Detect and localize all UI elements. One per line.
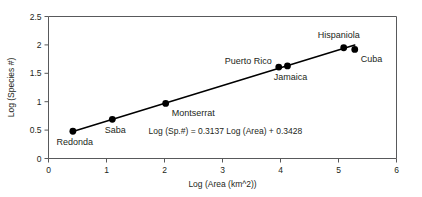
data-point-montserrat — [162, 100, 169, 107]
y-axis-title: Log (Species #) — [6, 58, 16, 118]
point-label-cuba: Cuba — [361, 54, 383, 64]
chart-canvas: 0123456 00.511.522.5 RedondaSabaMontserr… — [0, 0, 422, 197]
y-tick-label: 1.5 — [30, 68, 42, 78]
x-tick-label: 6 — [394, 165, 399, 175]
data-point-saba — [109, 116, 116, 123]
x-tick-label: 5 — [336, 165, 341, 175]
y-tick-label: 1 — [37, 97, 42, 107]
x-tick-label: 0 — [46, 165, 51, 175]
x-tick-label: 2 — [162, 165, 167, 175]
data-point-cuba — [351, 46, 358, 53]
data-point-puerto-rico — [275, 64, 282, 71]
point-label-hispaniola: Hispaniola — [318, 30, 360, 40]
y-tick-label: 2 — [37, 40, 42, 50]
x-axis-title: Log (Area (km^2)) — [188, 179, 256, 189]
y-tick-label: 0 — [37, 154, 42, 164]
point-label-montserrat: Montserrat — [172, 108, 216, 118]
x-tick-label: 4 — [278, 165, 283, 175]
point-label-puerto-rico: Puerto Rico — [225, 56, 272, 66]
x-tick-label: 3 — [220, 165, 225, 175]
data-point-jamaica — [284, 63, 291, 70]
point-label-redonda: Redonda — [57, 137, 94, 147]
chart-annotations: Log (Sp.#) = 0.3137 Log (Area) + 0.3428 — [149, 126, 303, 136]
x-tick-label: 1 — [104, 165, 109, 175]
x-axis-ticks: 0123456 — [46, 159, 399, 175]
point-label-saba: Saba — [105, 125, 126, 135]
y-tick-label: 0.5 — [30, 125, 42, 135]
y-axis-ticks: 00.511.522.5 — [30, 12, 49, 164]
y-tick-label: 2.5 — [30, 12, 42, 22]
data-point-hispaniola — [340, 44, 347, 51]
species-area-chart-figure: 0123456 00.511.522.5 RedondaSabaMontserr… — [0, 0, 422, 197]
data-point-redonda — [69, 128, 76, 135]
point-label-jamaica: Jamaica — [274, 72, 308, 82]
regression-equation: Log (Sp.#) = 0.3137 Log (Area) + 0.3428 — [149, 126, 303, 136]
